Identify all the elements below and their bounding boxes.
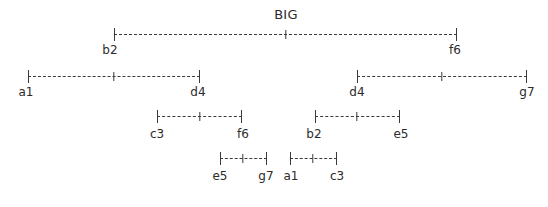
label-g7-l2: g7 — [519, 86, 534, 98]
bracket-span — [290, 158, 337, 159]
bracket-end-tick-left — [315, 110, 316, 123]
bracket-level2-right — [357, 70, 527, 84]
bracket-level4-right — [290, 152, 337, 166]
bracket-join-plus — [356, 112, 357, 121]
bracket-level4-left — [220, 152, 267, 166]
bracket-end-tick-left — [28, 70, 29, 83]
bracket-end-tick-left — [357, 70, 358, 83]
label-e5-l4: e5 — [212, 170, 227, 182]
bracket-end-tick-left — [157, 110, 158, 123]
label-d4-l2-left: d4 — [190, 86, 205, 98]
bracket-end-tick-right — [456, 28, 457, 41]
label-b2-l3: b2 — [306, 128, 321, 140]
label-a1-l2: a1 — [19, 86, 34, 98]
bracket-diagram-canvas: BIG b2f6a1d4d4g7c3f6b2e5e5g7a1c3 — [0, 0, 548, 207]
label-a1-l4: a1 — [284, 170, 299, 182]
bracket-span — [220, 158, 267, 159]
label-g7-l4: g7 — [258, 170, 273, 182]
bracket-end-tick-right — [526, 70, 527, 83]
bracket-join-plus — [285, 30, 286, 39]
bracket-level3-right — [315, 110, 400, 124]
label-b2-l1: b2 — [102, 44, 117, 56]
bracket-join-plus — [113, 72, 114, 81]
label-e5-l3: e5 — [393, 128, 408, 140]
bracket-end-tick-left — [220, 152, 221, 165]
label-d4-l2-right: d4 — [349, 86, 364, 98]
bracket-join-plus — [312, 154, 313, 163]
bracket-join-plus — [242, 154, 243, 163]
diagram-title: BIG — [274, 8, 298, 21]
bracket-span — [315, 116, 400, 117]
bracket-end-tick-left — [290, 152, 291, 165]
bracket-level1-root — [114, 28, 457, 42]
bracket-level2-left — [28, 70, 200, 84]
bracket-end-tick-right — [266, 152, 267, 165]
bracket-end-tick-left — [114, 28, 115, 41]
bracket-end-tick-right — [199, 70, 200, 83]
bracket-join-plus — [199, 112, 200, 121]
bracket-join-plus — [441, 72, 442, 81]
bracket-end-tick-right — [336, 152, 337, 165]
label-f6-l1: f6 — [449, 44, 461, 56]
label-c3-l3: c3 — [150, 128, 164, 140]
bracket-level3-left — [157, 110, 242, 124]
label-c3-l4: c3 — [330, 170, 344, 182]
label-f6-l3: f6 — [237, 128, 249, 140]
bracket-end-tick-right — [241, 110, 242, 123]
bracket-end-tick-right — [399, 110, 400, 123]
